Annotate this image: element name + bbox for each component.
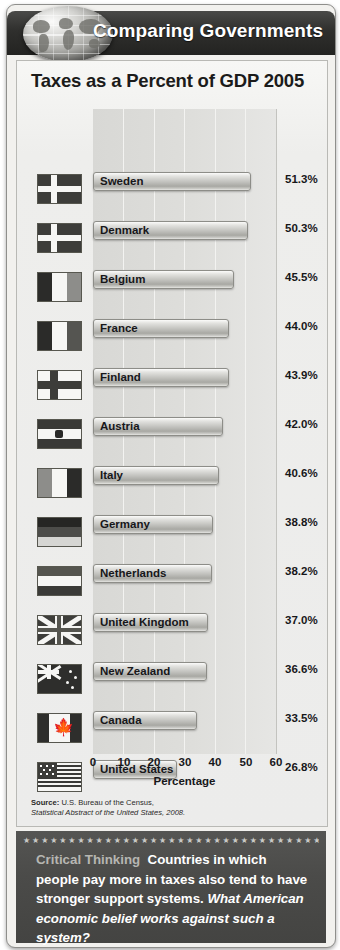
value-label: 33.5% <box>285 712 329 724</box>
header-title: Comparing Governments <box>93 20 325 42</box>
x-axis: 0102030405060 <box>93 756 293 772</box>
bar-italy: Italy <box>93 466 219 485</box>
bar-label: France <box>100 321 138 336</box>
x-axis-label: Percentage <box>93 775 276 787</box>
bar-netherlands: Netherlands <box>93 564 212 583</box>
value-label: 38.2% <box>285 565 329 577</box>
x-tick-60: 60 <box>270 756 283 768</box>
bar-canada: Canada <box>93 711 197 730</box>
canada-flag-icon: 🍁 <box>37 713 82 743</box>
bar-label: Netherlands <box>100 566 166 581</box>
germany-flag-icon <box>37 517 82 547</box>
table-row: Germany38.8% <box>17 507 327 556</box>
value-label: 37.0% <box>285 614 329 626</box>
table-row: France44.0% <box>17 311 327 360</box>
source-line1: U.S. Bureau of the Census, <box>61 798 153 807</box>
bar-label: Germany <box>100 517 150 532</box>
value-label: 42.0% <box>285 418 329 430</box>
critical-thinking-label: Critical Thinking <box>36 852 144 867</box>
value-label: 44.0% <box>285 320 329 332</box>
x-tick-20: 20 <box>148 756 161 768</box>
table-row: Belgium45.5% <box>17 262 327 311</box>
united-kingdom-flag-icon <box>37 615 82 645</box>
x-tick-10: 10 <box>118 756 131 768</box>
bar-belgium: Belgium <box>93 270 234 289</box>
table-row: Sweden51.3% <box>17 164 327 213</box>
finland-flag-icon <box>37 370 82 400</box>
table-row: Netherlands38.2% <box>17 556 327 605</box>
value-label: 45.5% <box>285 271 329 283</box>
denmark-flag-icon <box>37 223 82 253</box>
sweden-flag-icon <box>37 174 82 204</box>
x-tick-30: 30 <box>179 756 192 768</box>
x-tick-50: 50 <box>240 756 253 768</box>
austria-flag-icon <box>37 419 82 449</box>
bar-label: United Kingdom <box>100 615 189 630</box>
chart-title: Taxes as a Percent of GDP 2005 <box>31 70 304 92</box>
bar-germany: Germany <box>93 515 213 534</box>
netherlands-flag-icon <box>37 566 82 596</box>
infographic-card: Comparing Governments Taxes as a Percent… <box>6 4 336 948</box>
header-bar: Comparing Governments <box>7 11 335 55</box>
value-label: 36.6% <box>285 663 329 675</box>
bar-label: Finland <box>100 370 141 385</box>
bar-label: Austria <box>100 419 140 434</box>
bar-austria: Austria <box>93 417 223 436</box>
table-row: United Kingdom37.0% <box>17 605 327 654</box>
bar-label: Denmark <box>100 223 149 238</box>
new-zealand-flag-icon <box>37 664 82 694</box>
x-tick-0: 0 <box>90 756 96 768</box>
value-label: 40.6% <box>285 467 329 479</box>
source-note: Source: U.S. Bureau of the Census, Stati… <box>31 798 311 818</box>
source-line2: Statistical Abstract of the United State… <box>31 808 185 817</box>
bar-sweden: Sweden <box>93 172 251 191</box>
bar-finland: Finland <box>93 368 229 387</box>
bar-label: Sweden <box>100 174 143 189</box>
star-divider: ★★★★★★★★★★★★★★★★★★★★★★★★★★★★★★★★★★ <box>23 835 319 846</box>
value-label: 43.9% <box>285 369 329 381</box>
bar-label: Canada <box>100 713 142 728</box>
france-flag-icon <box>37 321 82 351</box>
table-row: Denmark50.3% <box>17 213 327 262</box>
table-row: Austria42.0% <box>17 409 327 458</box>
source-label: Source: <box>31 798 61 807</box>
value-label: 51.3% <box>285 173 329 185</box>
table-row: Finland43.9% <box>17 360 327 409</box>
x-tick-40: 40 <box>209 756 222 768</box>
belgium-flag-icon <box>37 272 82 302</box>
bar-united-kingdom: United Kingdom <box>93 613 208 632</box>
united-states-flag-icon <box>37 762 82 792</box>
value-label: 50.3% <box>285 222 329 234</box>
italy-flag-icon <box>37 468 82 498</box>
table-row: 🍁Canada33.5% <box>17 703 327 752</box>
table-row: New Zealand36.6% <box>17 654 327 703</box>
bar-new-zealand: New Zealand <box>93 662 207 681</box>
critical-thinking-text: Critical Thinking Countries in which peo… <box>36 850 308 948</box>
bar-denmark: Denmark <box>93 221 248 240</box>
critical-thinking-box: ★★★★★★★★★★★★★★★★★★★★★★★★★★★★★★★★★★ Criti… <box>16 831 326 943</box>
chart-panel: Taxes as a Percent of GDP 2005 Sweden51.… <box>16 60 328 827</box>
bar-label: Italy <box>100 468 123 483</box>
bar-label: New Zealand <box>100 664 170 679</box>
bar-france: France <box>93 319 229 338</box>
table-row: Italy40.6% <box>17 458 327 507</box>
bar-label: Belgium <box>100 272 145 287</box>
value-label: 38.8% <box>285 516 329 528</box>
